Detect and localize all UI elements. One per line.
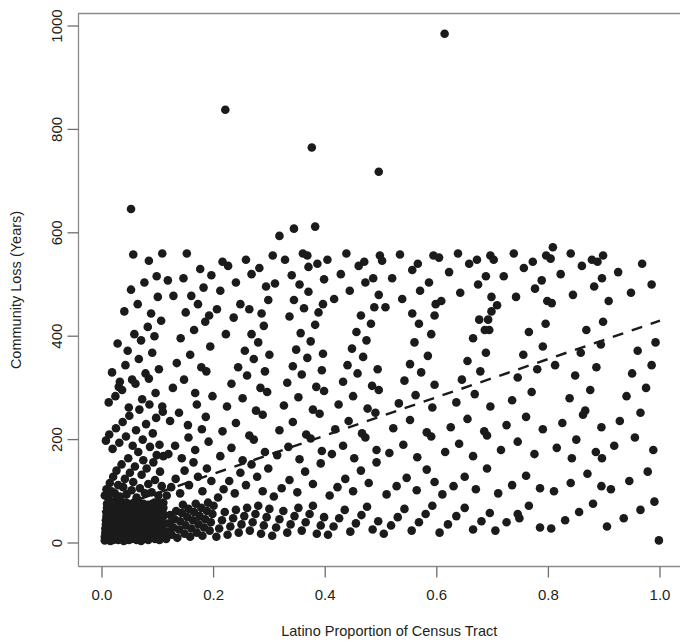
data-point: [406, 360, 415, 369]
y-axis-ticks: 02004006008001000: [48, 9, 79, 547]
data-point: [319, 300, 328, 309]
data-point: [268, 251, 277, 260]
data-point: [129, 478, 138, 487]
data-point: [599, 317, 608, 326]
data-point: [189, 458, 198, 467]
data-point: [292, 345, 301, 354]
data-point: [515, 514, 524, 523]
data-point: [469, 452, 478, 461]
data-point: [219, 485, 228, 494]
data-point: [549, 243, 558, 252]
data-point: [184, 433, 193, 442]
data-point: [643, 467, 652, 476]
data-point: [357, 511, 366, 520]
data-point: [209, 501, 218, 510]
data-point: [370, 303, 379, 312]
data-point: [116, 377, 125, 386]
data-point: [541, 319, 550, 328]
data-point: [203, 464, 212, 473]
data-points-layer: [100, 29, 663, 545]
data-point: [120, 307, 129, 316]
data-point: [463, 415, 472, 424]
data-point: [294, 504, 303, 513]
data-point: [128, 375, 137, 384]
data-point: [212, 533, 221, 542]
data-point: [647, 361, 656, 370]
data-point: [313, 260, 322, 269]
data-point: [194, 300, 203, 309]
data-point: [400, 505, 409, 514]
data-point: [344, 417, 353, 426]
data-point: [193, 400, 202, 409]
data-point: [522, 413, 531, 422]
data-point: [603, 522, 612, 531]
data-point: [295, 280, 304, 289]
data-point: [229, 313, 238, 322]
data-point: [155, 365, 164, 374]
data-point: [508, 481, 517, 490]
x-tick-label: 0.8: [538, 586, 559, 603]
data-point: [357, 311, 366, 320]
data-point: [389, 424, 398, 433]
data-point: [385, 449, 394, 458]
data-point: [275, 232, 284, 241]
data-point: [303, 354, 312, 363]
data-point: [508, 396, 517, 405]
data-point: [460, 473, 469, 482]
data-point: [281, 255, 290, 264]
data-point: [152, 272, 161, 281]
data-point: [238, 394, 247, 403]
data-point: [316, 459, 325, 468]
data-point: [118, 418, 127, 427]
data-point: [359, 353, 368, 362]
y-tick-label: 200: [48, 427, 65, 452]
data-point: [176, 334, 185, 343]
data-point: [260, 521, 269, 530]
data-point: [341, 475, 350, 484]
data-point: [218, 516, 227, 525]
data-point: [155, 440, 164, 449]
data-point: [104, 398, 113, 407]
data-point: [132, 426, 141, 435]
data-point: [287, 271, 296, 280]
data-point: [494, 489, 503, 498]
data-point: [283, 528, 292, 537]
data-point: [254, 501, 263, 510]
data-point: [415, 319, 424, 328]
data-point: [622, 392, 631, 401]
data-point: [628, 369, 637, 378]
data-point: [314, 308, 323, 317]
y-axis-title: Community Loss (Years): [8, 211, 24, 369]
data-point: [111, 392, 120, 401]
data-point: [264, 296, 273, 305]
data-point: [141, 369, 150, 378]
data-point: [369, 274, 378, 283]
data-point: [302, 430, 311, 439]
data-point: [139, 456, 148, 465]
data-point: [289, 418, 298, 427]
data-point: [435, 528, 444, 537]
data-point: [127, 486, 136, 495]
data-point: [361, 278, 370, 287]
data-point: [329, 522, 338, 531]
data-point: [399, 440, 408, 449]
data-point: [520, 264, 529, 273]
data-point: [483, 464, 492, 473]
data-point: [318, 366, 327, 375]
data-point: [258, 487, 267, 496]
data-point: [113, 339, 122, 348]
data-point: [280, 401, 289, 410]
data-point: [469, 334, 478, 343]
data-point: [303, 251, 312, 260]
data-point: [452, 398, 461, 407]
data-point: [363, 404, 372, 413]
data-point: [371, 408, 380, 417]
data-point: [590, 282, 599, 291]
data-point: [556, 270, 565, 279]
data-point: [261, 448, 270, 457]
data-point: [142, 420, 151, 429]
data-point: [558, 419, 567, 428]
data-point: [243, 504, 252, 513]
data-point: [512, 293, 521, 302]
data-point: [539, 342, 548, 351]
